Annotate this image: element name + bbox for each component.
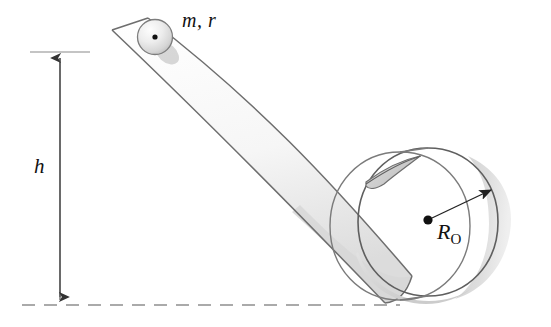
ramp-near-edge [112, 30, 385, 303]
loop-entry-flap [366, 156, 420, 188]
height-label: h [34, 154, 45, 179]
physics-diagram: h m, r RO [0, 0, 551, 327]
loop-radius-label: RO [437, 219, 461, 248]
loop-radius-arrow [432, 190, 491, 218]
loop-right-crescent [455, 156, 511, 299]
diagram-canvas [0, 0, 551, 327]
loop-center-dot [423, 215, 432, 224]
loop-radius-subscript: O [450, 231, 461, 247]
ball-label: m, r [182, 9, 216, 32]
ball-center-dot [152, 34, 157, 39]
loop-radius-symbol: R [437, 219, 450, 244]
